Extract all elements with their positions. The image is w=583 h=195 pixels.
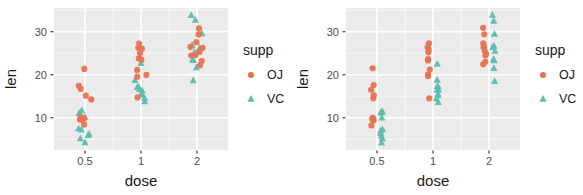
plot-area: 1020300.512doselensuppOJVC: [292, 0, 583, 195]
legend: suppOJVC: [243, 42, 284, 106]
data-point-oj: [134, 74, 140, 80]
legend-item-oj[interactable]: OJ: [248, 68, 283, 82]
plot-area: 1020300.512doselensuppOJVC: [0, 0, 292, 195]
data-point-oj: [370, 65, 376, 71]
legend-item-label: VC: [267, 92, 284, 106]
y-axis-title: len: [294, 69, 311, 89]
y-tick-label: 30: [35, 26, 47, 38]
data-point-oj: [196, 31, 202, 37]
data-point-oj: [83, 93, 89, 99]
data-point-oj: [81, 66, 87, 72]
figure-root: 1020300.512doselensuppOJVC1020300.512dos…: [0, 0, 583, 195]
data-point-oj: [192, 52, 198, 58]
data-point-oj: [136, 55, 142, 61]
x-tick-label: 1: [138, 155, 144, 167]
data-point-oj: [143, 72, 149, 78]
y-tick-label: 30: [327, 26, 339, 38]
data-point-oj: [193, 39, 199, 45]
legend-key-triangle-icon: [539, 95, 546, 102]
y-axis-title: len: [2, 69, 19, 89]
data-point-oj: [134, 67, 140, 73]
data-point-oj: [199, 45, 205, 51]
data-point-oj: [78, 86, 84, 92]
legend-title: supp: [243, 42, 274, 58]
data-point-oj: [81, 115, 87, 121]
legend-item-oj[interactable]: OJ: [540, 68, 575, 82]
left-panel: 1020300.512doselensuppOJVC: [0, 0, 292, 195]
data-point-oj: [368, 87, 374, 93]
data-point-oj: [483, 51, 489, 57]
x-axis-title: dose: [417, 172, 450, 189]
right-panel: 1020300.512doselensuppOJVC: [292, 0, 583, 195]
legend-key-triangle-icon: [247, 95, 254, 102]
data-point-oj: [369, 116, 375, 122]
data-point-oj: [480, 25, 486, 31]
legend-item-vc[interactable]: VC: [539, 92, 576, 106]
data-point-oj: [426, 47, 432, 53]
x-tick-label: 0.5: [77, 155, 92, 167]
data-point-oj: [187, 44, 193, 50]
data-point-oj: [370, 95, 376, 101]
legend-item-vc[interactable]: VC: [247, 92, 284, 106]
data-point-oj: [482, 59, 488, 65]
data-point-oj: [196, 25, 202, 31]
data-point-oj: [426, 40, 432, 46]
x-tick-label: 2: [194, 155, 200, 167]
data-point-oj: [425, 56, 431, 62]
y-tick-label: 20: [35, 69, 47, 81]
data-point-oj: [199, 58, 205, 64]
data-point-oj: [134, 94, 140, 100]
data-point-oj: [136, 40, 142, 46]
x-tick-label: 0.5: [369, 155, 384, 167]
x-axis-title: dose: [125, 172, 158, 189]
data-point-oj: [480, 40, 486, 46]
data-point-oj: [481, 31, 487, 37]
y-tick-label: 10: [35, 112, 47, 124]
legend: suppOJVC: [535, 42, 576, 106]
x-tick-label: 1: [430, 155, 436, 167]
legend-item-label: VC: [559, 92, 576, 106]
data-point-oj: [427, 66, 433, 72]
legend-item-label: OJ: [559, 68, 575, 82]
x-tick-label: 2: [486, 155, 492, 167]
legend-key-circle-icon: [248, 72, 254, 78]
legend-key-circle-icon: [540, 72, 546, 78]
data-point-oj: [88, 96, 94, 102]
legend-title: supp: [535, 42, 566, 58]
legend-item-label: OJ: [267, 68, 283, 82]
y-tick-label: 10: [327, 112, 339, 124]
y-tick-label: 20: [327, 69, 339, 81]
data-point-oj: [426, 95, 432, 101]
